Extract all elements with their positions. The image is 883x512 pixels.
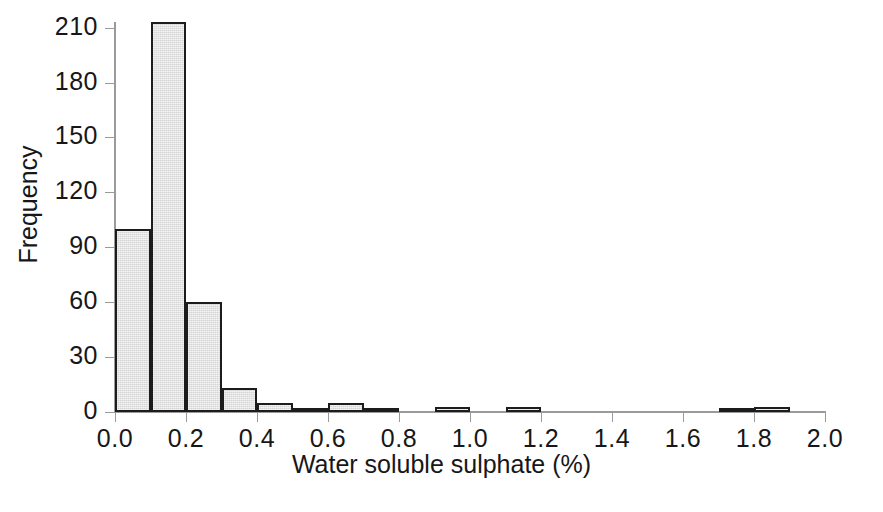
y-tick-label: 60 (28, 286, 98, 315)
y-tick (105, 412, 114, 413)
y-tick (105, 83, 114, 84)
histogram-bar (115, 229, 151, 412)
y-tick-label: 180 (28, 67, 98, 96)
x-tick-label: 1.8 (714, 424, 794, 453)
x-tick (257, 413, 258, 422)
x-tick-label: 0.4 (217, 424, 297, 453)
y-tick (105, 357, 114, 358)
x-tick-label: 0.0 (75, 424, 155, 453)
y-tick-label: 150 (28, 121, 98, 150)
x-tick (328, 413, 329, 422)
histogram-bar (293, 408, 329, 412)
x-tick (186, 413, 187, 422)
x-tick (683, 413, 684, 422)
y-tick-label: 90 (28, 231, 98, 260)
histogram-bar (186, 302, 222, 412)
x-tick (612, 413, 613, 422)
y-tick-label: 210 (28, 12, 98, 41)
x-tick-label: 0.6 (288, 424, 368, 453)
histogram-bar (364, 408, 400, 412)
histogram-bar (222, 388, 258, 412)
x-tick-label: 1.4 (572, 424, 652, 453)
y-tick (105, 137, 114, 138)
y-tick (105, 192, 114, 193)
x-tick (754, 413, 755, 422)
histogram-bar (328, 403, 364, 412)
x-tick-label: 1.2 (501, 424, 581, 453)
y-tick-label: 120 (28, 176, 98, 205)
x-tick (541, 413, 542, 422)
y-tick-label: 30 (28, 341, 98, 370)
x-tick-label: 1.0 (430, 424, 510, 453)
histogram-bar (435, 407, 471, 412)
x-tick (115, 413, 116, 422)
x-tick-label: 2.0 (785, 424, 865, 453)
x-tick (470, 413, 471, 422)
plot-area (115, 24, 825, 412)
histogram-figure: Frequency 0306090120150180210 0.00.20.40… (0, 0, 883, 512)
y-tick (105, 28, 114, 29)
y-tick (105, 302, 114, 303)
y-tick-label: 0 (28, 396, 98, 425)
y-tick (105, 247, 114, 248)
histogram-bar (257, 403, 293, 412)
x-tick-label: 0.2 (146, 424, 226, 453)
x-axis-title: Water soluble sulphate (%) (0, 450, 883, 479)
histogram-bar (151, 22, 187, 412)
x-tick-label: 1.6 (643, 424, 723, 453)
histogram-bar (719, 408, 755, 412)
histogram-bar (754, 407, 790, 412)
x-tick (399, 413, 400, 422)
x-tick (825, 413, 826, 422)
histogram-bar (506, 407, 542, 412)
x-tick-label: 0.8 (359, 424, 439, 453)
